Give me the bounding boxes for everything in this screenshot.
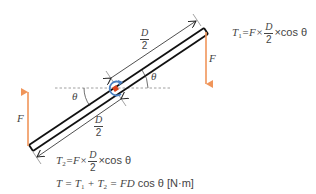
upper-dimension-label: D2 bbox=[139, 28, 150, 51]
formula-t2: T2=F×D2×cos θ bbox=[56, 150, 131, 173]
lever-arm bbox=[29, 28, 208, 151]
angle-label-lower: θ bbox=[72, 91, 77, 102]
force-label-left: F bbox=[17, 113, 24, 124]
formula-total: T = T1 + T2 = FD cos θ [N·m] bbox=[56, 178, 194, 191]
formula-t1: T1=F×D2×cos θ bbox=[232, 22, 307, 45]
force-label-right: F bbox=[209, 53, 216, 64]
lower-dimension-label: D2 bbox=[93, 115, 104, 138]
angle-arc-upper bbox=[142, 70, 148, 88]
angle-label-upper: θ bbox=[151, 71, 156, 82]
angle-arc-lower bbox=[84, 88, 90, 106]
